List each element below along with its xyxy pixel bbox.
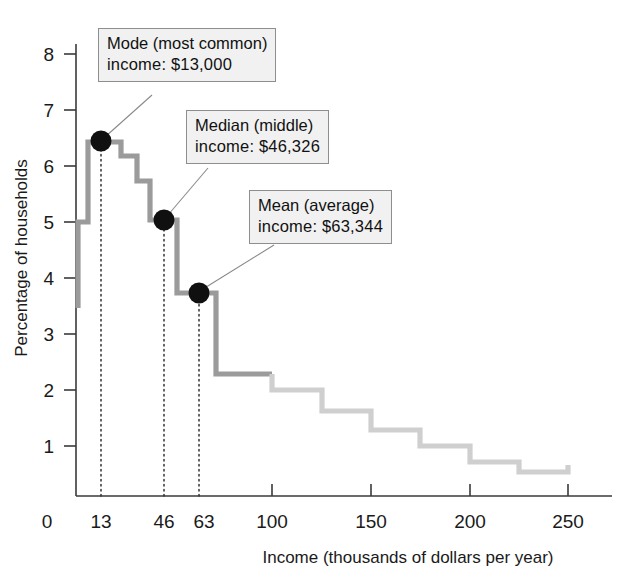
y-tick-label: 8 (43, 44, 54, 65)
x-tick-label: 13 (90, 511, 111, 532)
x-axis-ticks (272, 484, 568, 496)
y-axis-tick-labels: 8 7 6 5 4 3 2 1 (43, 44, 54, 457)
marker-dot-median (154, 210, 175, 231)
y-axis-ticks (64, 54, 76, 446)
y-tick-label: 2 (43, 380, 54, 401)
leader-line-mode (105, 95, 152, 137)
income-distribution-chart: 8 7 6 5 4 3 2 1 0 13 46 63 100 150 200 2… (0, 0, 628, 583)
callout-median-line2: income: $46,326 (195, 136, 320, 157)
x-tick-label: 63 (193, 511, 214, 532)
x-tick-label: 200 (454, 511, 486, 532)
marker-dot-mode (91, 131, 112, 152)
leader-line-median (168, 168, 208, 215)
y-tick-label: 6 (43, 156, 54, 177)
x-tick-label: 250 (552, 511, 584, 532)
income-step-curve-light (272, 374, 568, 472)
callout-mean: Mean (average) income: $63,344 (249, 190, 392, 244)
y-tick-label: 7 (43, 100, 54, 121)
x-axis-tick-labels: 0 13 46 63 100 150 200 250 (42, 511, 584, 532)
marker-dot-mean (189, 283, 210, 304)
y-tick-label: 5 (43, 212, 54, 233)
y-tick-label: 4 (43, 268, 54, 289)
chart-plot-area: 8 7 6 5 4 3 2 1 0 13 46 63 100 150 200 2… (0, 0, 628, 583)
callout-mean-line2: income: $63,344 (258, 216, 383, 237)
y-tick-label: 1 (43, 436, 54, 457)
callout-mode-line2: income: $13,000 (107, 54, 267, 75)
income-step-curve-dark (78, 142, 272, 374)
callout-median: Median (middle) income: $46,326 (186, 110, 329, 164)
x-axis-title: Income (thousands of dollars per year) (262, 548, 553, 567)
callout-median-line1: Median (middle) (195, 115, 320, 136)
leader-line-mean (203, 245, 274, 289)
x-tick-label: 46 (153, 511, 174, 532)
y-tick-label: 3 (43, 324, 54, 345)
callout-mode: Mode (most common) income: $13,000 (98, 28, 276, 82)
x-tick-label: 150 (355, 511, 387, 532)
y-axis-title: Percentage of households (12, 159, 31, 357)
x-tick-label: 100 (256, 511, 288, 532)
callout-mode-line1: Mode (most common) (107, 33, 267, 54)
callout-mean-line1: Mean (average) (258, 195, 383, 216)
x-tick-label: 0 (42, 511, 53, 532)
